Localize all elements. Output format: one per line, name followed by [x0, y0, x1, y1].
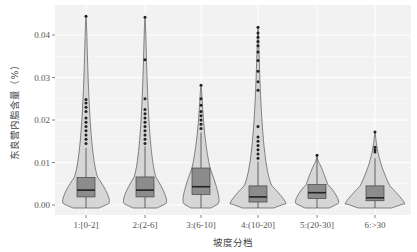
- box: [249, 186, 267, 202]
- outlier-point: [257, 140, 260, 143]
- outlier-point: [257, 44, 260, 47]
- y-tick-label: 0.01: [34, 158, 50, 168]
- outlier-point: [144, 112, 147, 115]
- y-axis: 0.000.010.020.030.04: [34, 30, 55, 210]
- x-tick-label: 5:(20-30]: [300, 220, 334, 230]
- outlier-point: [257, 26, 260, 29]
- x-axis: 1:[0-2]2:(2-6]3:(6-10]4:(10-20]5:(20-30]…: [74, 215, 387, 230]
- y-tick-label: 0.03: [34, 73, 50, 83]
- outlier-point: [257, 144, 260, 147]
- outlier-point: [144, 16, 147, 19]
- box: [136, 177, 154, 197]
- x-axis-title: 坡度分档: [213, 237, 253, 248]
- x-tick-label: 2:(2-6]: [133, 220, 158, 230]
- outlier-point: [144, 142, 147, 145]
- outlier-point: [144, 121, 147, 124]
- outlier-point: [257, 40, 260, 43]
- x-tick-label: 3:(6-10]: [186, 220, 216, 230]
- outlier-point: [200, 123, 203, 126]
- outlier-point: [144, 138, 147, 141]
- outlier-point: [257, 89, 260, 92]
- outlier-point: [316, 154, 319, 157]
- x-tick-label: 4:(10-20]: [241, 220, 275, 230]
- outlier-point: [85, 98, 88, 101]
- outlier-point: [85, 129, 88, 132]
- box: [77, 177, 95, 197]
- y-tick-label: 0.02: [34, 115, 50, 125]
- outlier-point: [257, 125, 260, 128]
- outlier-point: [200, 127, 203, 130]
- y-axis-title: 东良营内脂含量（%）: [9, 60, 20, 159]
- box: [192, 168, 210, 194]
- outlier-point: [257, 136, 260, 139]
- outlier-point: [85, 106, 88, 109]
- outlier-point: [200, 104, 203, 107]
- outlier-point: [144, 133, 147, 136]
- violin-box-chart: 0.000.010.020.030.04 1:[0-2]2:(2-6]3:(6-…: [0, 0, 417, 252]
- outlier-point: [85, 15, 88, 18]
- outlier-point: [85, 133, 88, 136]
- outlier-point: [144, 125, 147, 128]
- outlier-point: [200, 119, 203, 122]
- y-tick-label: 0.00: [34, 200, 50, 210]
- outlier-point: [85, 138, 88, 141]
- outlier-point: [144, 97, 147, 100]
- outlier-point: [144, 58, 147, 61]
- outlier-point: [257, 36, 260, 39]
- outlier-point: [144, 129, 147, 132]
- outlier-point: [85, 116, 88, 119]
- outlier-point: [257, 59, 260, 62]
- outlier-point: [257, 31, 260, 34]
- outlier-point: [200, 84, 203, 87]
- outlier-point: [144, 108, 147, 111]
- outlier-point: [200, 114, 203, 117]
- outlier-point: [85, 125, 88, 128]
- y-tick-label: 0.04: [34, 30, 50, 40]
- outlier-point: [200, 97, 203, 100]
- x-tick-label: 1:[0-2]: [74, 220, 99, 230]
- outlier-point: [257, 51, 260, 54]
- outlier-point: [85, 121, 88, 124]
- x-tick-label: 6:>30: [364, 220, 386, 230]
- outlier-point: [374, 130, 377, 133]
- outlier-point: [200, 110, 203, 113]
- outlier-point: [374, 150, 377, 153]
- outlier-point: [257, 157, 260, 160]
- outlier-point: [257, 70, 260, 73]
- outlier-point: [85, 102, 88, 105]
- outlier-point: [257, 153, 260, 156]
- outlier-point: [144, 116, 147, 119]
- outlier-point: [85, 142, 88, 145]
- outlier-point: [85, 110, 88, 113]
- box: [308, 185, 326, 199]
- outlier-point: [257, 80, 260, 83]
- outlier-point: [257, 148, 260, 151]
